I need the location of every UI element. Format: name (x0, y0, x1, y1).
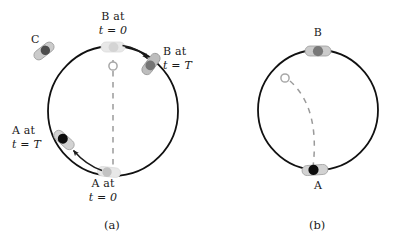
caption-panel-a: (a) (104, 218, 120, 232)
label-a-at-tT-line1: A at (12, 124, 41, 138)
label-a-at-tT: A at t = T (12, 124, 41, 151)
panel-b-circle (258, 50, 378, 170)
panel-a-bob (109, 62, 117, 70)
panel-b-ball (281, 74, 289, 82)
label-a-marker: A (303, 180, 333, 193)
panel-a (32, 40, 178, 178)
car-b-ghost-t0 (101, 42, 125, 52)
label-a-at-t0-line2: t = 0 (73, 191, 133, 205)
figure-root: C B at t = 0 B at t = T A at t = T A at … (0, 0, 403, 252)
panel-b-dashed-curve (290, 81, 314, 167)
label-b-marker: B (303, 27, 333, 40)
caption-panel-b: (b) (309, 218, 325, 232)
label-a-at-t0: A at t = 0 (73, 177, 133, 204)
label-b-at-tT-line2: t = T (163, 59, 192, 73)
label-b-at-tT-line1: B at (163, 45, 192, 59)
label-a-at-t0-line1: A at (73, 177, 133, 191)
label-b-at-tT: B at t = T (163, 45, 192, 72)
figure-canvas (0, 0, 403, 252)
label-a-at-tT-line2: t = T (12, 138, 41, 152)
label-b-at-t0-line1: B at (83, 10, 143, 24)
panel-a-arrow-a (74, 151, 103, 171)
label-b-at-t0-line2: t = 0 (83, 24, 143, 38)
car-b-top (305, 46, 331, 56)
label-b-at-t0: B at t = 0 (83, 10, 143, 37)
panel-b (258, 46, 378, 176)
label-c-marker: C (31, 34, 40, 47)
car-a-bottom (302, 164, 329, 176)
